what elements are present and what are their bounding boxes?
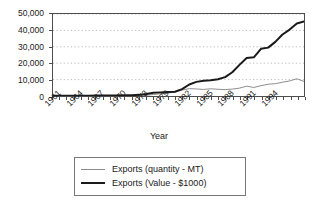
y-tick-label: 30,000 <box>18 43 44 52</box>
x-axis-title: Year <box>0 131 318 141</box>
legend-item-value: Exports (Value - $1000) <box>81 176 239 190</box>
legend-item-quantity: Exports (quantity - MT) <box>81 162 239 176</box>
legend-label-value: Exports (Value - $1000) <box>112 178 206 188</box>
y-tick-label: 50,000 <box>18 9 44 18</box>
legend-label-quantity: Exports (quantity - MT) <box>112 164 204 174</box>
y-axis: 010,00020,00030,00040,00050,000 <box>0 6 48 102</box>
y-tick-label: 40,000 <box>18 26 44 35</box>
x-axis-labels: 1961196419671970197319791982198519881991… <box>0 99 318 129</box>
y-tick-label: 10,000 <box>18 76 44 85</box>
legend-swatch-quantity-icon <box>81 169 105 170</box>
chart-legend: Exports (quantity - MT) Exports (Value -… <box>74 157 246 196</box>
legend-swatch-value-icon <box>81 182 105 184</box>
exports-line-chart: 010,00020,00030,00040,00050,000 19611964… <box>0 0 318 211</box>
plot-area <box>52 13 305 97</box>
y-tick-label: 20,000 <box>18 59 44 68</box>
series-lines <box>53 14 304 96</box>
